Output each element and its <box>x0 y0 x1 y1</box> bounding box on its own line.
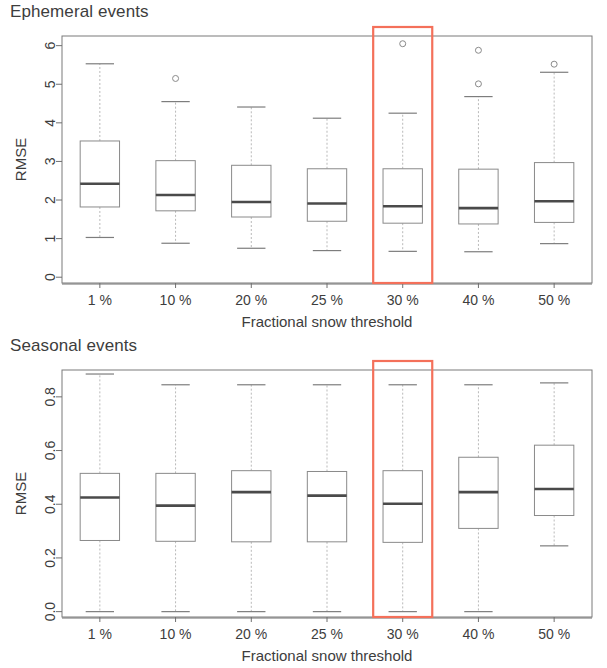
box-iqr <box>534 445 573 515</box>
y-axis-tick-label: 1 <box>42 235 58 243</box>
box-group <box>383 41 422 252</box>
box-iqr <box>232 471 271 542</box>
y-axis-tick-label: 5 <box>42 80 58 88</box>
boxplot-figure: Ephemeral events 0123456RMSE1 %10 %20 %2… <box>0 0 607 668</box>
box-group <box>307 385 346 612</box>
ephemeral-boxplot-svg: 0123456RMSE1 %10 %20 %25 %30 %40 %50 %Fr… <box>0 0 607 334</box>
y-axis-tick-label: 0.8 <box>42 387 58 407</box>
x-axis-title: Fractional snow threshold <box>242 647 413 664</box>
box-group <box>459 47 498 251</box>
x-axis-tick-label: 25 % <box>311 292 343 308</box>
x-axis-tick-label: 20 % <box>235 626 267 642</box>
box-iqr <box>80 141 119 207</box>
y-axis-tick-label: 0.2 <box>42 548 58 568</box>
box-iqr <box>383 169 422 223</box>
box-group <box>80 374 119 612</box>
x-axis-title: Fractional snow threshold <box>242 313 413 330</box>
x-axis-tick-label: 10 % <box>160 292 192 308</box>
box-group <box>156 385 195 612</box>
x-axis-tick-label: 30 % <box>387 626 419 642</box>
y-axis-tick-label: 2 <box>42 196 58 204</box>
y-axis-tick-label: 0.0 <box>42 602 58 622</box>
box-group <box>534 61 573 243</box>
box-group <box>459 385 498 612</box>
box-iqr <box>80 473 119 540</box>
box-iqr <box>232 165 271 217</box>
y-axis-tick-label: 0 <box>42 273 58 281</box>
y-axis-tick-label: 4 <box>42 119 58 127</box>
box-iqr <box>156 161 195 211</box>
box-iqr <box>156 473 195 541</box>
x-axis-tick-label: 50 % <box>538 292 570 308</box>
x-axis-tick-label: 50 % <box>538 626 570 642</box>
outlier-point <box>551 61 557 67</box>
box-group <box>232 107 271 248</box>
outlier-point <box>400 41 406 47</box>
box-iqr <box>534 163 573 223</box>
y-axis-title: RMSE <box>12 472 29 515</box>
box-group <box>383 385 422 612</box>
y-axis-tick-label: 3 <box>42 157 58 165</box>
box-iqr <box>307 471 346 541</box>
outlier-point <box>173 75 179 81</box>
x-axis-tick-label: 40 % <box>462 626 494 642</box>
box-group <box>232 385 271 612</box>
x-axis-tick-label: 40 % <box>462 292 494 308</box>
y-axis-title: RMSE <box>12 138 29 181</box>
x-axis-tick-label: 25 % <box>311 626 343 642</box>
box-iqr <box>383 471 422 543</box>
x-axis-tick-label: 1 % <box>88 626 112 642</box>
x-axis-tick-label: 30 % <box>387 292 419 308</box>
box-group <box>80 64 119 238</box>
box-iqr <box>307 169 346 221</box>
x-axis-tick-label: 10 % <box>160 626 192 642</box>
y-axis-tick-label: 0.6 <box>42 441 58 461</box>
box-group <box>307 118 346 250</box>
box-iqr <box>459 169 498 224</box>
box-group <box>534 383 573 546</box>
seasonal-boxplot-svg: 0.00.20.40.60.8RMSE1 %10 %20 %25 %30 %40… <box>0 334 607 668</box>
x-axis-tick-label: 20 % <box>235 292 267 308</box>
box-group <box>156 75 195 243</box>
outlier-point <box>475 47 481 53</box>
x-axis-tick-label: 1 % <box>88 292 112 308</box>
outlier-point <box>475 81 481 87</box>
panel-seasonal-events: Seasonal events 0.00.20.40.60.8RMSE1 %10… <box>0 334 607 668</box>
panel-ephemeral-events: Ephemeral events 0123456RMSE1 %10 %20 %2… <box>0 0 607 334</box>
y-axis-tick-label: 6 <box>42 42 58 50</box>
y-axis-tick-label: 0.4 <box>42 494 58 514</box>
